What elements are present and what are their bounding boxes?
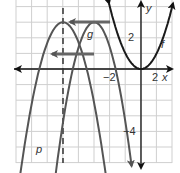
label-f: f: [161, 38, 165, 50]
x-tick-2: 2: [152, 71, 158, 83]
graph-figure: −2 2 x y 2 −4 f g p: [0, 0, 180, 173]
label-g: g: [87, 28, 94, 40]
x-axis-label: x: [161, 71, 168, 83]
curve-p: [41, 22, 131, 173]
y-tick-2: 2: [128, 31, 134, 43]
label-p: p: [35, 143, 42, 155]
x-tick-neg2: −2: [103, 71, 116, 83]
y-tick-neg4: −4: [123, 125, 136, 137]
coordinate-plane: −2 2 x y 2 −4 f g p: [0, 0, 180, 173]
y-axis-label: y: [145, 2, 153, 14]
grid-lines: [16, 0, 172, 163]
